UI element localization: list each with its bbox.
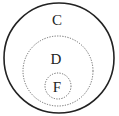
set-f-label: F — [53, 79, 61, 95]
diagram-canvas: C D F — [0, 0, 119, 116]
set-d-circle — [23, 36, 93, 106]
set-c-label: C — [52, 12, 62, 28]
venn-diagram: C D F — [0, 0, 119, 116]
set-d-label: D — [51, 51, 62, 67]
